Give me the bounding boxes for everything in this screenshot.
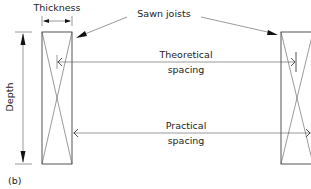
arrow-left-icon (43, 19, 49, 23)
arrow-right-icon (65, 19, 71, 23)
theoretical-spacing-dimension: Theoretical spacing (57, 49, 296, 75)
leader-arrow-right-icon (267, 30, 278, 35)
figure-label: (b) (8, 175, 21, 186)
practical-label-line1: Practical (166, 120, 207, 131)
leader-line-right (201, 17, 272, 33)
practical-spacing-dimension: Practical spacing (73, 120, 311, 146)
right-joist (281, 32, 311, 164)
theoretical-label-line2: spacing (168, 64, 205, 75)
thickness-dimension: Thickness (33, 2, 81, 26)
left-joist (42, 32, 72, 164)
arrow-down-icon (21, 151, 26, 163)
leader-line-left (80, 17, 127, 36)
depth-label: Depth (4, 83, 15, 112)
joist-spacing-diagram: Thickness Depth Sawn joists Theoretical … (0, 0, 311, 189)
thickness-label: Thickness (33, 2, 81, 13)
depth-dimension: Depth (4, 32, 32, 164)
theoretical-label-line1: Theoretical (158, 49, 212, 60)
sawn-joists-label: Sawn joists (137, 8, 190, 19)
sawn-joists-callout: Sawn joists (76, 8, 278, 38)
arrow-up-icon (21, 33, 26, 45)
practical-label-line2: spacing (168, 135, 205, 146)
leader-arrow-left-icon (76, 31, 87, 38)
